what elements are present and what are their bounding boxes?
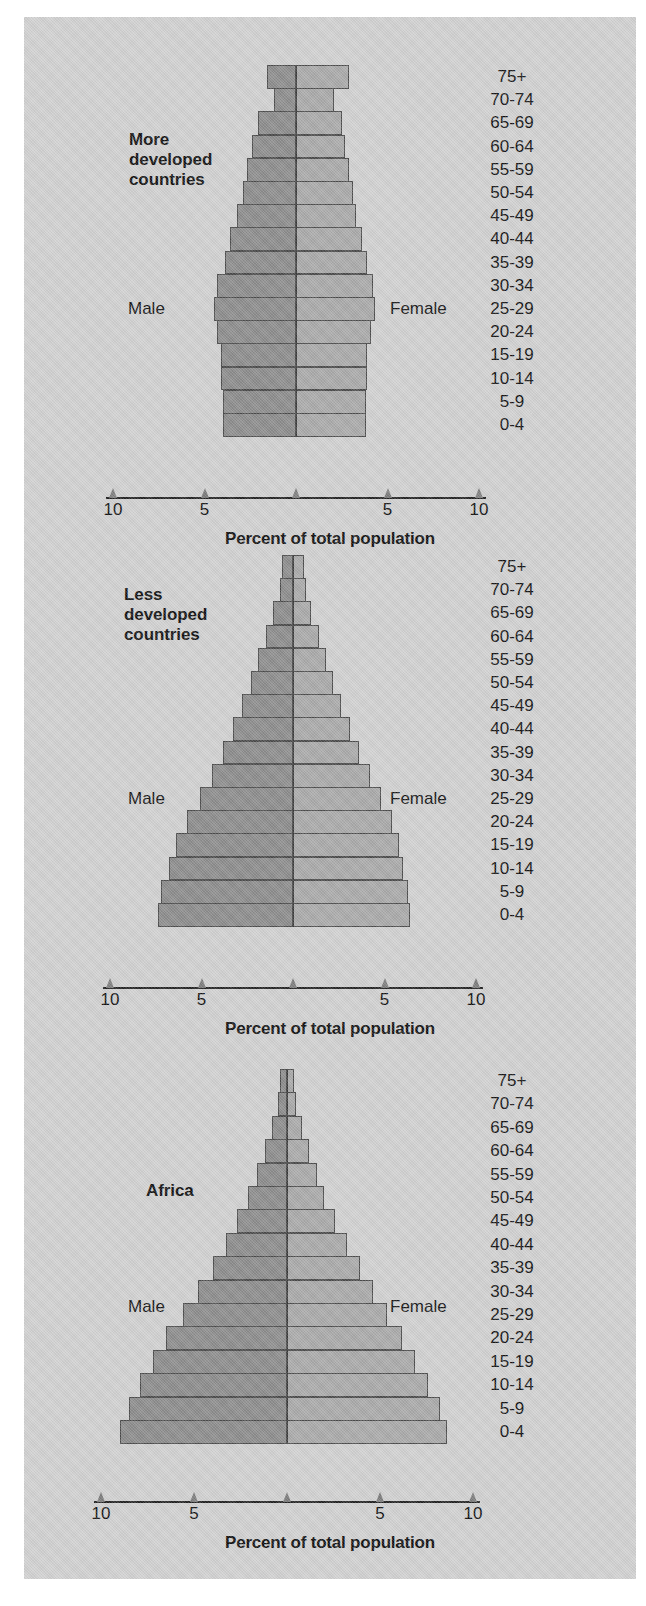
bar-female [296,343,367,367]
age-group-label: 5-9 [464,1400,560,1418]
bar-female [293,578,306,602]
bar-female [287,1373,428,1397]
x-axis-tick [376,1492,384,1502]
age-group-label: 10-14 [464,370,560,388]
bar-female [293,903,410,927]
age-group-label: 35-39 [464,744,560,762]
bar-female [296,111,342,135]
bar-female [296,88,334,112]
bar-female [287,1116,302,1140]
bar-male [169,857,293,881]
age-group-label: 15-19 [464,1353,560,1371]
age-group-label: 50-54 [464,184,560,202]
bar-male [129,1397,287,1421]
bar-female [293,625,319,649]
age-group-label: 45-49 [464,207,560,225]
x-axis-tick-label: 10 [459,500,499,519]
bar-female [293,857,403,881]
bar-female [287,1350,415,1374]
x-axis-tick [190,1492,198,1502]
bar-female [287,1139,309,1163]
bar-female [287,1163,317,1187]
bar-female [287,1092,296,1116]
x-axis-tick-label: 5 [182,990,222,1009]
bar-female [293,787,381,811]
x-axis-tick-label: 5 [360,1504,400,1523]
x-axis-tick-label: 5 [185,500,225,519]
bar-male [242,694,293,718]
bar-male [213,1256,287,1280]
pyramid-center-axis-line [296,65,297,437]
bar-male [265,1139,287,1163]
bar-male [120,1420,287,1444]
bar-female [296,251,367,275]
bar-male [267,65,296,89]
age-group-label: 55-59 [464,1166,560,1184]
age-group-label: 5-9 [464,883,560,901]
bar-female [287,1209,335,1233]
x-axis-tick-label: 5 [368,500,408,519]
bar-male [225,251,296,275]
age-group-label: 50-54 [464,1189,560,1207]
bar-male [217,274,296,298]
pyramid-panel-2: Less developed countriesMaleFemale75+70-… [24,537,636,1047]
age-group-label: 30-34 [464,277,560,295]
age-group-label: 60-64 [464,628,560,646]
male-legend-label: Male [128,789,165,808]
age-group-label: 65-69 [464,604,560,622]
bar-male [266,625,293,649]
bar-male [274,88,296,112]
female-legend-label: Female [390,299,447,318]
age-group-label: 35-39 [464,254,560,272]
age-group-labels: 75+70-7465-6960-6455-5950-5445-4940-4435… [464,555,560,926]
bar-male [278,1092,287,1116]
bar-male [161,880,293,904]
pyramid-panel-1: More developed countriesMaleFemale75+70-… [24,45,636,557]
x-axis-tick [201,488,209,498]
figure-plate: More developed countriesMaleFemale75+70-… [24,17,636,1579]
bar-male [280,578,293,602]
bar-male [187,810,293,834]
bar-male [217,320,296,344]
bar-female [287,1233,347,1257]
x-axis-tick-label: 10 [93,500,133,519]
age-group-label: 55-59 [464,651,560,669]
bar-female [293,717,350,741]
bar-female [296,65,349,89]
bar-male [223,741,293,765]
age-group-label: 60-64 [464,138,560,156]
pyramid-panel-3: AfricaMaleFemale75+70-7465-6960-6455-595… [24,1039,636,1561]
bar-male [198,1280,287,1304]
male-legend-label: Male [128,299,165,318]
bar-male [153,1350,287,1374]
x-axis-tick [381,978,389,988]
age-group-label: 65-69 [464,1119,560,1137]
bar-female [293,555,304,579]
bar-female [293,601,311,625]
bar-female [293,671,333,695]
age-group-label: 20-24 [464,323,560,341]
bar-female [293,833,399,857]
age-group-label: 40-44 [464,230,560,248]
age-group-label: 45-49 [464,1212,560,1230]
female-legend-label: Female [390,1297,447,1316]
age-group-label: 30-34 [464,767,560,785]
bar-male [243,181,296,205]
x-axis: 105510 [24,1491,636,1521]
bar-male [280,1069,287,1093]
x-axis-tick-label: 5 [174,1504,214,1523]
bar-female [287,1303,387,1327]
age-group-label: 40-44 [464,1236,560,1254]
bar-female [296,413,366,437]
age-group-label: 30-34 [464,1283,560,1301]
age-group-label: 40-44 [464,720,560,738]
bar-male [230,227,296,251]
age-group-label: 20-24 [464,1329,560,1347]
bar-female [296,227,362,251]
bar-male [221,343,296,367]
bar-male [247,158,296,182]
x-axis: 105510 [24,487,636,517]
bar-male [272,1116,287,1140]
x-axis-tick [109,488,117,498]
bar-male [273,601,293,625]
